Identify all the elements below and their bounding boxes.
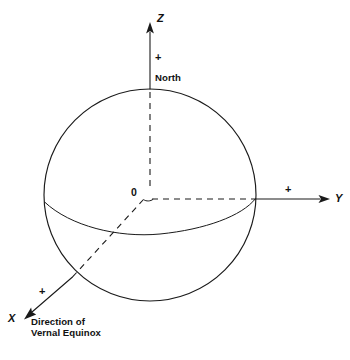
celestial-sphere-outline [44, 89, 256, 301]
z-axis-plus-sign: + [155, 51, 161, 64]
equator-arc [45, 199, 256, 235]
vernal-equinox-caption: Direction of Vernal Equinox [31, 316, 101, 339]
z-axis-label: Z [157, 12, 164, 25]
vernal-equinox-caption-line-1: Direction of [31, 316, 101, 327]
north-pole-label: North [155, 72, 181, 83]
diagram-canvas [0, 0, 350, 360]
celestial-sphere-diagram: Z + North 0 Y + X + Direction of Vernal … [0, 0, 350, 360]
origin-angle-arc [144, 199, 154, 201]
y-axis-label: Y [335, 192, 343, 205]
x-axis-dashed-segment [73, 200, 144, 278]
x-axis-label: X [8, 312, 16, 325]
y-axis-plus-sign: + [285, 183, 291, 196]
vernal-equinox-caption-line-2: Vernal Equinox [31, 327, 101, 338]
x-axis-plus-sign: + [39, 285, 45, 298]
origin-label: 0 [131, 186, 137, 198]
